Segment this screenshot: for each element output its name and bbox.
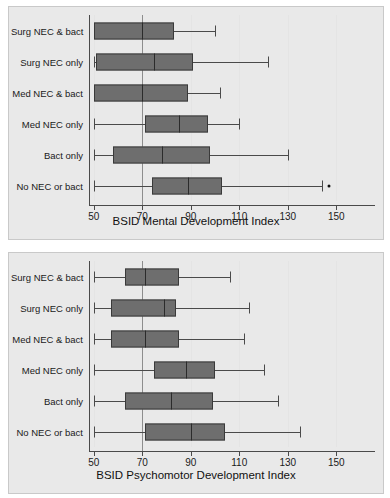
box-0 [94,22,174,39]
category-label-3: Med NEC only [11,118,83,129]
median-3 [179,115,180,132]
median-5 [191,423,192,440]
whisker-high-3 [215,370,263,371]
gridline-150 [336,261,337,447]
whisker-high-3 [208,124,240,125]
median-0 [142,22,143,39]
category-label-3: Med NEC only [11,364,83,375]
gridline-50 [94,15,95,201]
whisker-high-5 [222,186,321,187]
box-3 [145,115,208,132]
x-tick-90 [191,206,192,210]
x-axis-line [89,205,375,206]
category-label-1: Surg NEC only [11,56,83,67]
whisker-cap-high-4 [278,395,279,406]
whisker-cap-high-5 [322,180,323,191]
category-label-5: No NEC or bact [11,426,83,437]
x-tick-70 [142,206,143,210]
y-axis-line [89,261,90,451]
whisker-cap-high-3 [239,118,240,129]
whisker-high-0 [179,277,230,278]
whisker-low-1 [94,308,111,309]
x-axis-title-mdi: BSID Mental Development Index [9,215,383,227]
whisker-cap-high-4 [288,149,289,160]
reference-line [142,15,143,205]
whisker-cap-high-1 [268,56,269,67]
box-1 [111,299,176,316]
whisker-cap-low-1 [94,302,95,313]
y-axis-line [89,15,90,205]
x-tick-label-70: 70 [122,457,162,468]
x-tick-label-130: 130 [268,457,308,468]
median-5 [188,177,189,194]
gridline-90 [191,261,192,447]
median-2 [145,330,146,347]
whisker-cap-low-0 [94,271,95,282]
whisker-low-4 [94,401,126,402]
x-tick-130 [288,206,289,210]
whisker-cap-low-4 [94,149,95,160]
whisker-cap-low-5 [94,426,95,437]
reference-line [142,261,143,451]
x-axis-line [89,451,375,452]
gridline-50 [94,261,95,447]
category-label-0: Surg NEC & bact [11,25,83,36]
whisker-low-5 [94,432,145,433]
category-label-4: Bact only [11,395,83,406]
x-tick-label-50: 50 [74,457,114,468]
whisker-high-1 [176,308,249,309]
whisker-high-2 [179,339,244,340]
outlier-5-0 [327,184,330,187]
x-tick-50 [94,452,95,456]
box-4 [125,392,212,409]
whisker-cap-high-0 [230,271,231,282]
x-tick-150 [336,452,337,456]
whisker-low-3 [94,124,145,125]
whisker-high-5 [225,432,300,433]
category-label-2: Med NEC & bact [11,333,83,344]
whisker-low-4 [94,155,113,156]
box-2 [94,84,189,101]
whisker-cap-high-5 [300,426,301,437]
category-label-5: No NEC or bact [11,180,83,191]
x-tick-130 [288,452,289,456]
whisker-cap-low-3 [94,118,95,129]
whisker-cap-high-2 [244,333,245,344]
box-3 [154,361,215,378]
category-label-2: Med NEC & bact [11,87,83,98]
whisker-low-0 [94,277,126,278]
whisker-high-2 [188,93,220,94]
x-tick-90 [191,452,192,456]
gridline-130 [288,261,289,447]
gridline-150 [336,15,337,201]
gridline-90 [191,15,192,201]
box-5 [152,177,222,194]
whisker-high-0 [174,31,215,32]
whisker-high-1 [193,62,268,63]
box-5 [145,423,225,440]
whisker-cap-high-2 [220,87,221,98]
category-label-0: Surg NEC & bact [11,271,83,282]
whisker-high-4 [213,401,278,402]
category-label-4: Bact only [11,149,83,160]
median-0 [145,268,146,285]
box-1 [96,53,193,70]
median-3 [186,361,187,378]
x-tick-110 [239,452,240,456]
median-4 [171,392,172,409]
chart-panel-mental-development-index: 507090110130150Surg NEC & bactSurg NEC o… [8,6,384,240]
gridline-110 [239,15,240,201]
x-tick-label-150: 150 [316,457,356,468]
whisker-low-5 [94,186,152,187]
whisker-low-3 [94,370,155,371]
x-tick-label-110: 110 [219,457,259,468]
whisker-low-2 [94,339,111,340]
gridline-130 [288,15,289,201]
chart-canvas-mdi: 507090110130150Surg NEC & bactSurg NEC o… [9,7,383,239]
median-1 [154,53,155,70]
chart-canvas-pdi: 507090110130150Surg NEC & bactSurg NEC o… [9,253,383,493]
whisker-cap-low-2 [94,333,95,344]
figure-container: 507090110130150Surg NEC & bactSurg NEC o… [0,0,390,498]
x-tick-110 [239,206,240,210]
x-tick-70 [142,452,143,456]
